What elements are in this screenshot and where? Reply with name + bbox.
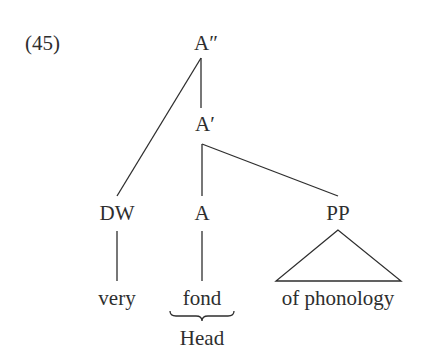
node-pp: PP xyxy=(326,203,349,224)
leaf-of-phonology: of phonology xyxy=(282,288,395,309)
head-brace xyxy=(170,311,234,321)
leaf-fond: fond xyxy=(183,288,222,309)
node-dw: DW xyxy=(100,203,135,224)
edge-a2-dw xyxy=(117,58,201,196)
pp-triangle xyxy=(276,230,401,281)
node-a: A xyxy=(194,203,209,224)
node-a-bar: A′ xyxy=(195,114,215,135)
edge-a1-pp xyxy=(202,144,338,196)
node-a-double-bar: A″ xyxy=(194,33,218,54)
head-annotation: Head xyxy=(180,328,224,349)
leaf-very: very xyxy=(98,288,135,309)
example-number: (45) xyxy=(25,33,60,54)
